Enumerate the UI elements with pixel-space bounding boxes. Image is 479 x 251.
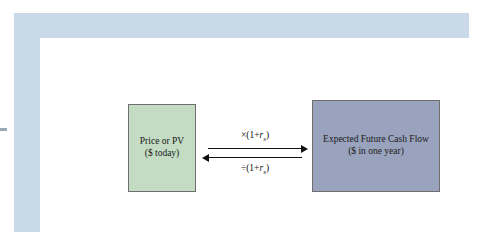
arrow-line-right bbox=[208, 148, 302, 149]
inner-plate: Price or PV ($ today) ×(1+rs) ÷(1+rs) Ex… bbox=[40, 38, 471, 233]
price-or-pv-label-line1: Price or PV bbox=[140, 136, 184, 148]
multiply-label-suffix: ) bbox=[266, 130, 269, 140]
arrow-head-right-icon bbox=[301, 145, 308, 153]
multiply-label-prefix: ×(1+ bbox=[241, 130, 260, 140]
expected-cash-flow-label-line2: ($ in one year) bbox=[348, 146, 404, 158]
expected-future-cash-flow-box: Expected Future Cash Flow ($ in one year… bbox=[312, 100, 440, 192]
arrow-head-left-icon bbox=[202, 154, 209, 162]
outer-frame: Price or PV ($ today) ×(1+rs) ÷(1+rs) Ex… bbox=[14, 13, 469, 232]
arrow-group: ×(1+rs) ÷(1+rs) bbox=[200, 130, 310, 178]
price-or-pv-label-line2: ($ today) bbox=[145, 148, 180, 160]
diagram-canvas: Price or PV ($ today) ×(1+rs) ÷(1+rs) Ex… bbox=[0, 0, 479, 251]
price-or-pv-box: Price or PV ($ today) bbox=[128, 104, 196, 192]
divide-label: ÷(1+rs) bbox=[200, 163, 310, 176]
multiply-label: ×(1+rs) bbox=[200, 130, 310, 143]
divide-label-prefix: ÷(1+ bbox=[241, 163, 260, 173]
arrow-line-left bbox=[208, 157, 302, 158]
expected-cash-flow-label-line1: Expected Future Cash Flow bbox=[323, 134, 429, 146]
margin-tick-mark bbox=[0, 128, 7, 131]
divide-label-suffix: ) bbox=[266, 163, 269, 173]
